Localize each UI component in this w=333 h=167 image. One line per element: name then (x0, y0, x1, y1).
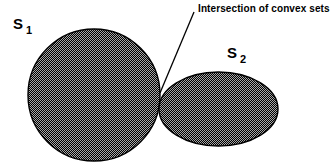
convex-set-1-shape (28, 29, 160, 161)
convex-sets-figure: S1 S2 Intersection of convex sets (0, 0, 333, 167)
convex-set-2-label: S2 (227, 45, 243, 60)
set-2-symbol: S (227, 44, 237, 61)
convex-set-2-shape (159, 72, 278, 146)
set-1-symbol: S (13, 15, 23, 32)
figure-canvas (0, 0, 333, 167)
convex-set-1-label: S1 (13, 16, 29, 31)
intersection-annotation-label: Intersection of convex sets (198, 4, 330, 14)
set-2-subscript: 2 (240, 53, 246, 65)
set-1-subscript: 1 (26, 24, 32, 36)
